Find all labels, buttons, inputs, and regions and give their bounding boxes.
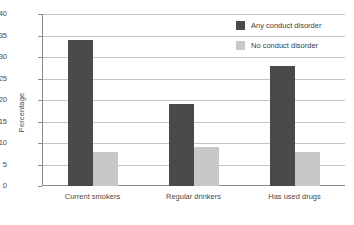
y-axis-title: Percentage	[14, 0, 28, 225]
y-tick-label: 15	[0, 118, 7, 126]
y-tick-label: 40	[0, 10, 7, 18]
chart-legend: Any conduct disorder No conduct disorder	[236, 17, 321, 57]
x-tick-label: Current smokers	[42, 192, 143, 201]
y-tick-label: 30	[0, 53, 7, 61]
y-tick-label: 0	[0, 182, 7, 190]
y-tick-label: 35	[0, 32, 7, 40]
legend-label-any-conduct-disorder: Any conduct disorder	[251, 21, 321, 30]
y-tick-mark	[38, 186, 42, 187]
legend-item: Any conduct disorder	[236, 17, 321, 33]
bar-chart: Percentage 0510152025303540 Current smok…	[0, 0, 354, 225]
x-tick-label: Regular drinkers	[143, 192, 244, 201]
legend-item: No conduct disorder	[236, 37, 321, 53]
bar-no-conduct-disorder-group-1	[194, 147, 219, 186]
y-tick-label: 10	[0, 139, 7, 147]
y-tick-label: 25	[0, 75, 7, 83]
bar-no-conduct-disorder-group-2	[295, 152, 320, 186]
legend-swatch-any-conduct-disorder	[236, 21, 245, 30]
y-tick-label: 20	[0, 96, 7, 104]
bar-no-conduct-disorder-group-0	[93, 152, 118, 186]
bar-any-conduct-disorder-group-1	[169, 104, 194, 186]
legend-swatch-no-conduct-disorder	[236, 41, 245, 50]
bar-any-conduct-disorder-group-2	[270, 66, 295, 186]
legend-label-no-conduct-disorder: No conduct disorder	[251, 41, 318, 50]
x-tick-label: Has used drugs	[244, 192, 345, 201]
bar-any-conduct-disorder-group-0	[68, 40, 93, 186]
y-tick-label: 5	[0, 161, 7, 169]
